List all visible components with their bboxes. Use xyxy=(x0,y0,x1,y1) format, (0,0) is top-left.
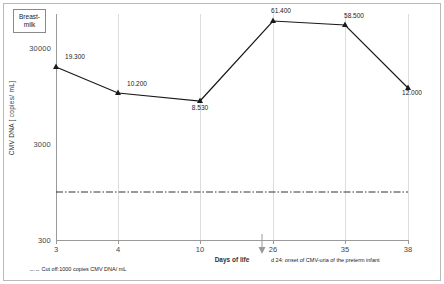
footnote-dash-icon: – · – xyxy=(30,267,39,273)
footnote-cutoff: – · –Cut off:1000 copies CMV DNA/ mL xyxy=(30,266,126,273)
data-label-0: 19.300 xyxy=(65,53,85,60)
data-label-2: 8.530 xyxy=(192,104,208,111)
series-line-breast-milk xyxy=(56,21,408,101)
series-layer xyxy=(0,0,444,284)
data-label-4: 58.500 xyxy=(344,12,364,19)
annotation-text: d 24: onset of CMV-uria of the preterm i… xyxy=(271,257,380,263)
data-point-marker-4 xyxy=(342,22,348,28)
data-label-5: 12.000 xyxy=(402,89,422,96)
data-label-1: 10.200 xyxy=(127,80,147,87)
chart-figure: 30000 3000 300 3 4 10 26 35 38 CMV DNA [… xyxy=(0,0,444,284)
footnote-cutoff-label: Cut off:1000 copies CMV DNA/ mL xyxy=(42,266,127,272)
data-label-3: 61.400 xyxy=(271,7,291,14)
data-point-marker-0 xyxy=(53,64,59,70)
data-point-marker-3 xyxy=(270,18,276,24)
annotation-arrow-head xyxy=(259,247,266,254)
